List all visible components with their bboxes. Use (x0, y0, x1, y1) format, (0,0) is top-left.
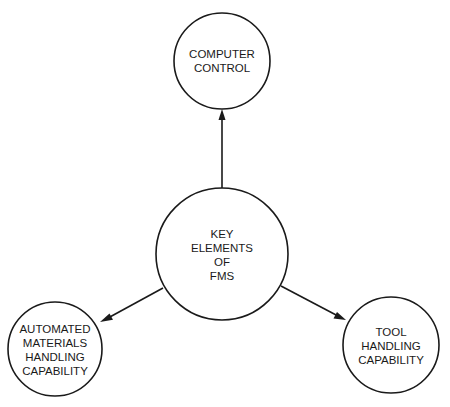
node-label-line: TOOL (375, 326, 407, 338)
arrowhead-materials-handling (100, 314, 113, 323)
node-label-line: ELEMENTS (191, 242, 253, 254)
edge-to-materials-handling (108, 288, 163, 318)
node-label-line: HANDLING (361, 340, 420, 352)
node-label-line: OF (214, 256, 230, 268)
arrowhead-computer-control (219, 109, 226, 120)
node-label-line: HANDLING (25, 351, 84, 363)
node-label-line: AUTOMATED (19, 323, 90, 335)
node-circle (156, 188, 288, 320)
node-computer-control: COMPUTER CONTROL (174, 13, 270, 109)
node-tool-handling: TOOL HANDLING CAPABILITY (343, 297, 439, 393)
node-label-line: COMPUTER (189, 48, 255, 60)
node-circle (174, 13, 270, 109)
node-key-elements: KEY ELEMENTS OF FMS (156, 188, 288, 320)
node-label-line: CAPABILITY (358, 354, 424, 366)
node-circle (8, 302, 102, 396)
node-label-line: FMS (210, 270, 235, 282)
fms-diagram: COMPUTER CONTROL KEY ELEMENTS OF FMS AUT… (0, 0, 450, 407)
node-label-line: KEY (210, 228, 233, 240)
node-label-line: CAPABILITY (22, 365, 88, 377)
node-label-line: CONTROL (194, 62, 251, 74)
node-label-line: MATERIALS (23, 337, 88, 349)
arrowhead-tool-handling (334, 312, 347, 320)
edge-to-tool-handling (281, 286, 338, 316)
node-materials-handling: AUTOMATED MATERIALS HANDLING CAPABILITY (8, 302, 102, 396)
